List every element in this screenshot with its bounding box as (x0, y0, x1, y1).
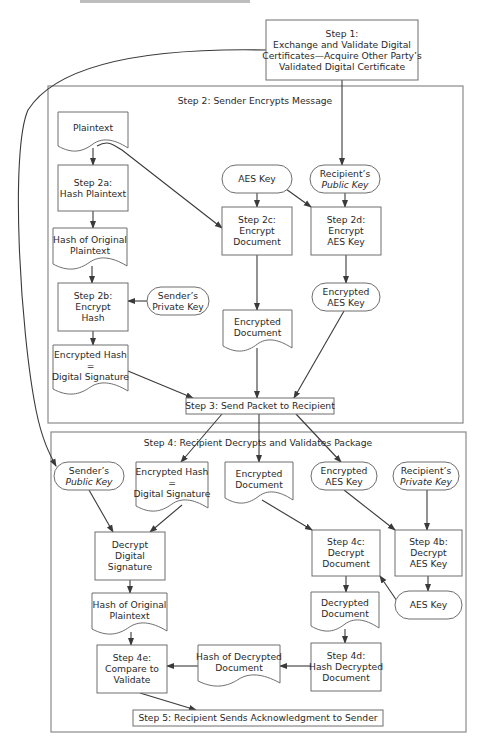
step4-encrypted-hash-label-line: Digital Signature (133, 488, 210, 499)
step2-encrypted-document-node: EncryptedDocument (223, 310, 292, 351)
step4-step4e-label-line: Validate (113, 674, 150, 685)
step4-step4c-label-line: Document (322, 558, 370, 569)
step4-decrypt-signature-label-line: Digital (115, 550, 145, 561)
step1-label-line: Validated Digital Certificate (279, 61, 406, 72)
step3-label-line: Step 3: Send Packet to Recipient (185, 400, 335, 411)
step4-step4b-label-line: Decrypt (410, 547, 447, 558)
step4-encrypted-hash-label-line: = (168, 477, 176, 488)
step2-sender-private-key-node: Sender’sPrivate Key (147, 287, 209, 315)
step2-hash-original-node: Hash of OriginalPlaintext (53, 228, 127, 269)
step5-node: Step 5: Recipient Sends Acknowledgment t… (133, 710, 383, 726)
step2-aes-key-node: AES Key (222, 165, 292, 193)
step4-encrypted-hash-node: Encrypted Hash=Digital Signature (133, 462, 210, 511)
step4-hash-original-node: Hash of OriginalPlaintext (92, 593, 167, 634)
step4-sender-public-key-label-line: Sender’s (69, 465, 109, 476)
step4-title: Step 4: Recipient Decrypts and Validates… (144, 437, 373, 448)
step2-encrypted-hash-label-line: Digital Signature (52, 371, 129, 382)
step1-label-line: Exchange and Validate Digital (273, 39, 411, 50)
step4-step4b-node: Step 4b:DecryptAES Key (395, 530, 462, 576)
aes-key-to-step2d-arrow (286, 189, 311, 207)
step4-aes-key-label-line: AES Key (410, 599, 448, 610)
step4-recipient-private-key-node: Recipient’sPrivate Key (393, 462, 459, 490)
step4-encrypted-document-label-line: Document (235, 479, 283, 490)
encrypted-aes-key-to-step4b-arrow (344, 490, 395, 530)
step2-step2c-node: Step 2c:EncryptDocument (222, 207, 292, 255)
step2-hash-original-label-line: Hash of Original (53, 234, 127, 245)
step4-step4d-node: Step 4d:Hash DecryptedDocument (309, 643, 383, 691)
step4-hash-original-label-line: Plaintext (109, 610, 150, 621)
step2-encrypted-hash-label-line: Encrypted Hash (54, 349, 127, 360)
step4-step4e-node: Step 4e:Compare toValidate (97, 645, 167, 693)
step2-encrypted-document-label-line: Document (234, 327, 282, 338)
step4-step4d-label-line: Document (322, 672, 370, 683)
step4e-to-step5-arrow (140, 693, 196, 710)
step4-step4b-label-line: AES Key (410, 558, 448, 569)
step2-aes-key-label-line: AES Key (238, 173, 276, 184)
step2-step2b-node: Step 2b:EncryptHash (58, 283, 128, 331)
step4-hash-decrypted-label-line: Document (215, 662, 263, 673)
step4-step4d-label-line: Hash Decrypted (309, 661, 383, 672)
step2-hash-original-label-line: Plaintext (70, 245, 111, 256)
step4-decrypt-signature-node: DecryptDigitalSignature (95, 532, 165, 580)
step2-step2c-label-line: Encrypt (239, 225, 275, 236)
step3-node: Step 3: Send Packet to Recipient (185, 398, 335, 414)
step4-step4c-label-line: Decrypt (328, 547, 365, 558)
step2-encrypted-aes-key-node: EncryptedAES Key (312, 283, 380, 311)
step4-encrypted-aes-key-label-line: Encrypted (321, 465, 368, 476)
step4-encrypted-document-node: EncryptedDocument (225, 462, 293, 503)
step2-encrypted-hash-label-line: = (87, 360, 95, 371)
step4-step4e-label-line: Compare to (105, 663, 159, 674)
step4-step4e-label-line: Step 4e: (113, 652, 151, 663)
step2-plaintext-node: Plaintext (58, 112, 128, 151)
cut-off-page-header (80, 0, 250, 3)
step4-decrypt-signature-label-line: Decrypt (112, 539, 149, 550)
step2-step2d-label-line: Step 2d: (327, 214, 366, 225)
step2-title: Step 2: Sender Encrypts Message (178, 95, 333, 106)
encrypted-aes-key-to-step3-arrow (294, 311, 344, 398)
step4-encrypted-aes-key-label-line: AES Key (325, 476, 363, 487)
step4-sender-public-key-label-line: Public Key (65, 476, 113, 487)
step4-recipient-private-key-label-line: Recipient’s (401, 465, 452, 476)
step4-encrypted-hash-label-line: Encrypted Hash (136, 466, 209, 477)
step2-step2d-node: Step 2d:EncryptAES Key (311, 207, 381, 255)
step2-recipient-public-key-label-line: Recipient’s (320, 168, 371, 179)
step1-node: Step 1:Exchange and Validate DigitalCert… (262, 20, 422, 80)
step4-encrypted-aes-key-node: EncryptedAES Key (311, 462, 377, 490)
step2-encrypted-aes-key-label-line: AES Key (327, 297, 365, 308)
sender-public-key-to-decrypt-arrow (89, 490, 113, 532)
step2-plaintext-label-line: Plaintext (73, 122, 114, 133)
aes-key-to-step4c-arrow (380, 576, 397, 601)
encrypted-hash-to-step3-arrow (128, 371, 193, 398)
step2-recipient-public-key-label-line: Public Key (321, 179, 369, 190)
step2-step2b-label-line: Hash (81, 312, 104, 323)
step4-recipient-private-key-label-line: Private Key (400, 476, 452, 487)
step4-aes-key-node: AES Key (395, 591, 462, 619)
step2-step2a-label-line: Hash Plaintext (60, 188, 127, 199)
step4-hash-decrypted-label-line: Hash of Decrypted (196, 651, 282, 662)
step4-decrypt-signature-label-line: Signature (108, 561, 153, 572)
step2-step2a-label-line: Step 2a: (74, 177, 112, 188)
step1-label-line: Certificates—Acquire Other Party’s (262, 50, 422, 61)
step2-step2d-label-line: AES Key (327, 236, 365, 247)
step4-decrypted-document-label-line: Document (321, 608, 369, 619)
step4-encrypted-document-label-line: Encrypted (236, 468, 283, 479)
step4-sender-public-key-node: Sender’sPublic Key (54, 462, 124, 490)
step1-label-line: Step 1: (326, 28, 359, 39)
step4-step4b-label-line: Step 4b: (409, 536, 448, 547)
step2-encrypted-document-label-line: Encrypted (234, 316, 281, 327)
step2-sender-private-key-label-line: Private Key (152, 301, 204, 312)
encryption-workflow-diagram: Step 2: Sender Encrypts Message Step 4: … (0, 0, 491, 750)
step4-step4c-label-line: Step 4c: (327, 536, 365, 547)
encrypted-document-to-step4c-arrow (262, 500, 312, 530)
step2-sender-private-key-label-line: Sender’s (158, 290, 198, 301)
step4-decrypted-document-label-line: Decrypted (321, 597, 369, 608)
step2-step2b-label-line: Step 2b: (74, 290, 113, 301)
step2-step2b-label-line: Encrypt (75, 301, 111, 312)
step4-step4d-label-line: Step 4d: (327, 650, 366, 661)
step2-step2d-label-line: Encrypt (328, 225, 364, 236)
step2-step2c-label-line: Step 2c: (238, 214, 276, 225)
step2-encrypted-aes-key-label-line: Encrypted (323, 286, 370, 297)
step4-step4c-node: Step 4c:DecryptDocument (312, 530, 380, 576)
step4-hash-original-label-line: Hash of Original (93, 599, 167, 610)
step2-encrypted-hash-node: Encrypted Hash=Digital Signature (52, 345, 129, 394)
